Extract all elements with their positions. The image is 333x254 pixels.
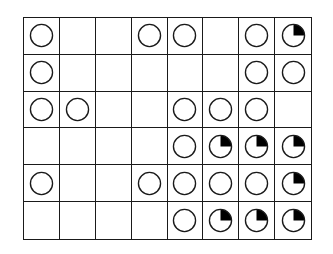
grid-cell bbox=[96, 92, 132, 129]
open-circle-icon bbox=[137, 171, 162, 196]
grid-cell bbox=[24, 128, 60, 165]
open-circle-icon bbox=[172, 208, 197, 233]
circle-grid bbox=[23, 17, 312, 240]
quarter-filled-circle-icon bbox=[281, 134, 306, 159]
grid-cell bbox=[203, 92, 239, 129]
open-circle-icon bbox=[137, 23, 162, 48]
open-circle-icon bbox=[208, 97, 233, 122]
quarter-filled-circle-icon bbox=[281, 208, 306, 233]
grid-cell bbox=[239, 18, 275, 55]
grid-cell bbox=[275, 128, 311, 165]
open-circle-icon bbox=[29, 97, 54, 122]
grid-cell bbox=[203, 18, 239, 55]
quarter-filled-circle-icon bbox=[208, 134, 233, 159]
grid-cell bbox=[60, 202, 96, 239]
grid-cell bbox=[168, 128, 204, 165]
grid-cell bbox=[275, 55, 311, 92]
open-circle-icon bbox=[244, 97, 269, 122]
grid-cell bbox=[275, 202, 311, 239]
grid-cell bbox=[239, 128, 275, 165]
grid-cell bbox=[132, 92, 168, 129]
grid-cell bbox=[24, 202, 60, 239]
grid-cell bbox=[60, 18, 96, 55]
grid-cell bbox=[24, 55, 60, 92]
grid-cell bbox=[239, 92, 275, 129]
open-circle-icon bbox=[172, 97, 197, 122]
open-circle-icon bbox=[172, 134, 197, 159]
grid-cell bbox=[203, 55, 239, 92]
grid-cell bbox=[132, 18, 168, 55]
grid-cell bbox=[275, 165, 311, 202]
quarter-filled-circle-icon bbox=[244, 134, 269, 159]
open-circle-icon bbox=[65, 97, 90, 122]
open-circle-icon bbox=[281, 60, 306, 85]
quarter-filled-circle-icon bbox=[281, 23, 306, 48]
grid-cell bbox=[239, 55, 275, 92]
open-circle-icon bbox=[29, 60, 54, 85]
grid-cell bbox=[96, 128, 132, 165]
quarter-filled-circle-icon bbox=[244, 208, 269, 233]
grid-cell bbox=[168, 202, 204, 239]
grid-cell bbox=[60, 92, 96, 129]
quarter-filled-circle-icon bbox=[208, 208, 233, 233]
open-circle-icon bbox=[29, 23, 54, 48]
grid-cell bbox=[239, 202, 275, 239]
grid-cell bbox=[96, 55, 132, 92]
grid-cell bbox=[132, 128, 168, 165]
quarter-filled-circle-icon bbox=[281, 171, 306, 196]
grid-cell bbox=[96, 202, 132, 239]
grid-cell bbox=[203, 202, 239, 239]
grid-cell bbox=[132, 165, 168, 202]
open-circle-icon bbox=[29, 171, 54, 196]
open-circle-icon bbox=[172, 23, 197, 48]
grid-cell bbox=[168, 165, 204, 202]
grid-cell bbox=[275, 18, 311, 55]
open-circle-icon bbox=[208, 171, 233, 196]
grid-cell bbox=[239, 165, 275, 202]
grid-cell bbox=[132, 55, 168, 92]
open-circle-icon bbox=[172, 171, 197, 196]
grid-cell bbox=[60, 128, 96, 165]
grid-cell bbox=[203, 165, 239, 202]
grid-cell bbox=[60, 55, 96, 92]
open-circle-icon bbox=[244, 60, 269, 85]
open-circle-icon bbox=[244, 23, 269, 48]
grid-cell bbox=[168, 92, 204, 129]
grid-cell bbox=[60, 165, 96, 202]
grid-cell bbox=[275, 92, 311, 129]
open-circle-icon bbox=[244, 171, 269, 196]
grid-cell bbox=[96, 165, 132, 202]
grid-cell bbox=[24, 92, 60, 129]
grid-cell bbox=[203, 128, 239, 165]
grid-cell bbox=[168, 18, 204, 55]
grid-cell bbox=[168, 55, 204, 92]
grid-cell bbox=[24, 18, 60, 55]
grid-cell bbox=[96, 18, 132, 55]
grid-cell bbox=[132, 202, 168, 239]
grid-cell bbox=[24, 165, 60, 202]
